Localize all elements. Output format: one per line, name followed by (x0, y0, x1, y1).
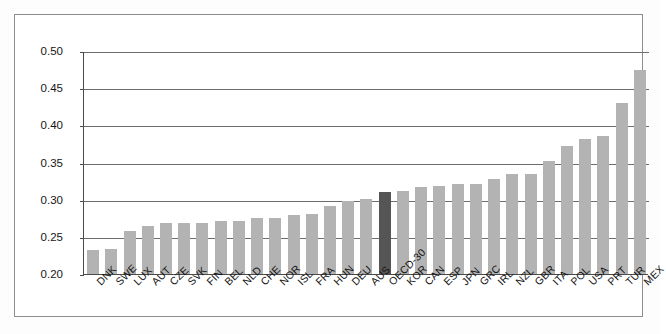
bar-oecd-30 (379, 192, 391, 275)
bar-series (84, 51, 649, 274)
bar-slot-prt (594, 51, 612, 274)
bar-slot-usa (576, 51, 594, 274)
bar-slot-esp (430, 51, 448, 274)
bar-slot-che (248, 51, 266, 274)
bar-dnk (87, 250, 99, 274)
chart-frame: 0.200.250.300.350.400.450.50 DNKSWELUXAU… (14, 14, 643, 317)
bar-slot-cze (157, 51, 175, 274)
plot-area (83, 52, 648, 275)
bar-irl (488, 179, 500, 274)
bar-slot-aut (139, 51, 157, 274)
bar-grc (470, 184, 482, 274)
bar-aus (360, 199, 372, 274)
y-tick-label-0.45: 0.45 (3, 83, 63, 94)
bar-hun (324, 206, 336, 274)
y-axis-labels: 0.200.250.300.350.400.450.50 (15, 15, 83, 334)
bar-pol (561, 146, 573, 274)
bar-nzl (506, 174, 518, 274)
bar-slot-lux (120, 51, 138, 274)
y-tick-label-0.35: 0.35 (3, 158, 63, 169)
bar-jpn (452, 184, 464, 274)
bar-slot-swe (102, 51, 120, 274)
y-tick-label-0.40: 0.40 (3, 120, 63, 131)
bar-slot-ita (540, 51, 558, 274)
bar-slot-isl (284, 51, 302, 274)
bar-slot-deu (339, 51, 357, 274)
bar-slot-dnk (84, 51, 102, 274)
bar-slot-hun (321, 51, 339, 274)
bar-prt (597, 136, 609, 274)
bar-usa (579, 139, 591, 274)
bar-slot-jpn (449, 51, 467, 274)
bar-slot-fin (193, 51, 211, 274)
bar-slot-fra (303, 51, 321, 274)
x-axis-labels: DNKSWELUXAUTCZESVKFINBELNLDCHENORISLFRAH… (83, 276, 648, 334)
bar-mex (634, 70, 646, 274)
y-tick-label-0.30: 0.30 (3, 195, 63, 206)
bar-slot-grc (467, 51, 485, 274)
bar-ita (543, 161, 555, 274)
bar-slot-gbr (521, 51, 539, 274)
bar-slot-tur (613, 51, 631, 274)
bar-slot-nor (266, 51, 284, 274)
bar-fra (306, 214, 318, 274)
bar-slot-nzl (503, 51, 521, 274)
bar-slot-can (412, 51, 430, 274)
bar-slot-kor (394, 51, 412, 274)
bar-tur (616, 103, 628, 274)
bar-slot-pol (558, 51, 576, 274)
bar-slot-irl (485, 51, 503, 274)
bar-gbr (525, 174, 537, 274)
y-tick-label-0.20: 0.20 (3, 269, 63, 280)
bar-slot-nld (230, 51, 248, 274)
bar-slot-aus (357, 51, 375, 274)
bar-esp (433, 186, 445, 274)
y-tick-label-0.25: 0.25 (3, 232, 63, 243)
bar-slot-bel (212, 51, 230, 274)
bar-slot-svk (175, 51, 193, 274)
bar-slot-mex (631, 51, 649, 274)
bar-slot-oecd-30 (376, 51, 394, 274)
y-tick-label-0.50: 0.50 (3, 46, 63, 57)
